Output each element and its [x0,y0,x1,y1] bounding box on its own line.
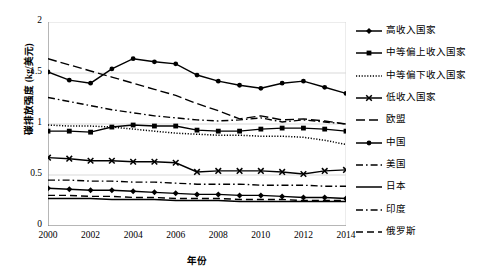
x-axis-title: 年份 [48,253,346,267]
data-point [67,78,72,83]
legend-key-icon [356,135,382,147]
y-tick-0.5: 0.5 [14,168,42,178]
data-point [322,127,327,132]
x-tick-2010: 2010 [243,230,279,240]
data-point [237,83,242,88]
plot-area [48,22,346,226]
data-point [88,81,93,86]
data-point [67,129,72,134]
legend-key-icon [356,202,382,214]
legend-label: 中等偏下收入国家 [386,67,466,81]
legend-key-icon [356,179,382,191]
chart-svg [48,22,346,226]
data-point [258,127,263,132]
data-point [322,85,327,90]
data-point [301,79,306,84]
data-point [216,79,221,84]
legend-item-3[interactable]: 低收入国家 [356,85,480,107]
legend-label: 印度 [386,201,406,215]
data-point [301,126,306,131]
data-point [88,130,93,135]
y-tick-1.5: 1.5 [14,66,42,76]
legend-label: 低收入国家 [386,89,436,103]
x-tick-2008: 2008 [200,230,236,240]
legend-item-9[interactable]: 俄罗斯 [356,219,480,241]
legend-label: 美国 [386,156,406,170]
data-point [195,73,200,78]
legend-key-icon [356,112,382,124]
legend-label: 日本 [386,178,406,192]
data-point [280,126,285,131]
data-point [173,124,178,129]
data-point [152,59,157,64]
data-point [216,129,221,134]
legend-label: 中国 [386,134,406,148]
y-tick-1: 1 [14,117,42,127]
data-point [237,129,242,134]
x-tick-2006: 2006 [158,230,194,240]
legend-label: 俄罗斯 [386,223,416,237]
x-tick-2000: 2000 [30,230,66,240]
legend-key-icon [356,68,382,80]
data-point [48,129,50,134]
y-tick-2: 2 [14,15,42,25]
legend-label: 欧盟 [386,111,406,125]
legend-item-2[interactable]: 中等偏下收入国家 [356,63,480,85]
legend-item-8[interactable]: 印度 [356,196,480,218]
data-point [280,81,285,86]
legend-label: 中等偏上收入国家 [386,44,466,58]
legend-item-0[interactable]: 高收入国家 [356,18,480,40]
x-tick-2012: 2012 [285,230,321,240]
chart-container: 碳排放强度 (kg/美元) 年份 00.511.52 2000200220042… [0,0,480,273]
data-point [258,86,263,91]
legend-label: 高收入国家 [386,22,436,36]
data-point [344,129,346,134]
legend-item-1[interactable]: 中等偏上收入国家 [356,40,480,62]
legend-item-6[interactable]: 美国 [356,152,480,174]
data-point [131,123,136,128]
data-point [131,56,136,61]
legend-key-icon [356,45,382,57]
data-point [173,61,178,66]
legend-key-icon [356,90,382,102]
legend-key-icon [356,23,382,35]
y-tick-0: 0 [14,219,42,229]
data-point [152,124,157,129]
legend-key-icon [356,157,382,169]
legend-item-5[interactable]: 中国 [356,129,480,151]
x-tick-2002: 2002 [73,230,109,240]
x-tick-2004: 2004 [115,230,151,240]
y-axis-title: 碳排放强度 (kg/美元) [21,9,35,169]
data-point [195,128,200,133]
legend-key-icon [356,224,382,236]
chart-legend: 高收入国家中等偏上收入国家中等偏下收入国家低收入国家欧盟中国美国日本印度俄罗斯 [356,18,480,241]
legend-item-4[interactable]: 欧盟 [356,107,480,129]
data-point [109,67,114,72]
legend-item-7[interactable]: 日本 [356,174,480,196]
